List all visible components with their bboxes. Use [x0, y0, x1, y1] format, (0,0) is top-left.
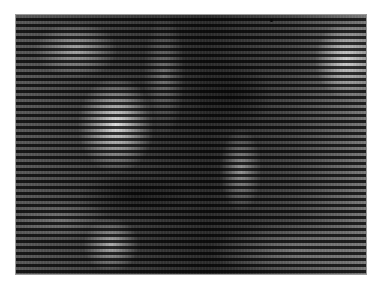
scanned-photo [16, 15, 366, 274]
dust-speck [270, 19, 273, 22]
scanline-overlay [16, 15, 366, 274]
image-canvas [0, 0, 380, 291]
